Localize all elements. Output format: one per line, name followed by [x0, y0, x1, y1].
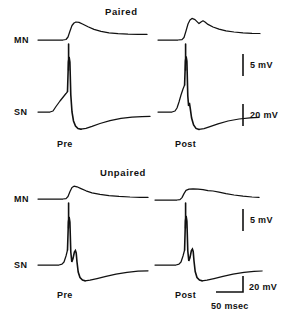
trace-unpaired-post-sn [155, 250, 185, 265]
scalebar-label-paired-sn-voltage: 20 mV [250, 110, 278, 120]
spike-paired-post-sn [185, 57, 199, 130]
spike-paired-pre-sn [68, 57, 82, 129]
trace-unpaired-pre-sn-recovery [85, 271, 148, 281]
scalebar-label-unpaired-sn-voltage: 20 mV [249, 282, 277, 292]
trace-unpaired-post-sn-recovery [202, 271, 262, 281]
column-label-paired-pre: Pre [57, 139, 73, 149]
scalebar-label-unpaired-mn-voltage: 5 mV [250, 215, 273, 225]
panel-title-paired: Paired [105, 6, 138, 17]
figure-canvas: Paired MN SN Pre Post [0, 0, 301, 320]
panel-unpaired: Unpaired MN SN Pre Post [14, 167, 277, 311]
trace-unpaired-pre-sn [38, 250, 68, 265]
column-label-unpaired-post: Post [175, 290, 196, 300]
row-label-unpaired-sn: SN [14, 260, 27, 270]
trace-unpaired-pre-mn [38, 186, 148, 199]
panel-title-unpaired: Unpaired [100, 167, 146, 178]
trace-paired-post-mn [158, 18, 260, 40]
trace-paired-pre-sn [38, 92, 68, 113]
panel-paired: Paired MN SN Pre Post [14, 6, 278, 149]
row-label-paired-mn: MN [14, 35, 29, 45]
trace-unpaired-post-mn [155, 189, 259, 200]
spike-unpaired-pre-sn [68, 217, 86, 281]
column-label-unpaired-pre: Pre [57, 290, 73, 300]
scalebar-label-time: 50 msec [211, 301, 249, 311]
column-label-paired-post: Post [175, 139, 196, 149]
scalebar-label-paired-mn-voltage: 5 mV [250, 60, 273, 70]
trace-paired-post-sn [158, 85, 185, 112]
row-label-unpaired-mn: MN [14, 194, 29, 204]
trace-paired-pre-mn [38, 22, 147, 40]
row-label-paired-sn: SN [14, 107, 27, 117]
spike-unpaired-post-sn [185, 216, 202, 281]
scalebar-time-voltage-corner [216, 276, 243, 292]
electrophysiology-figure: Paired MN SN Pre Post [0, 0, 301, 320]
trace-paired-pre-sn-recovery [81, 116, 150, 129]
